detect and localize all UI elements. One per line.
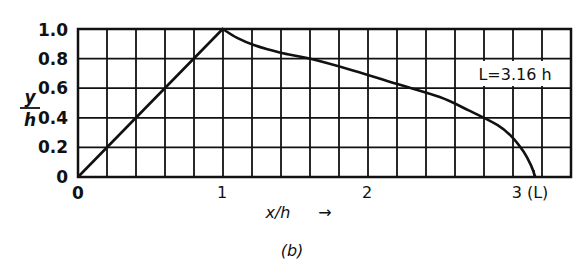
y-tick-0.4: 0.4	[38, 108, 68, 128]
x-tick-3-L: 3 (L)	[512, 183, 549, 202]
figure-caption: (b)	[281, 241, 304, 260]
y-tick-0.6: 0.6	[38, 78, 68, 98]
x-tick-0: 0	[72, 183, 84, 203]
y-tick-0.2: 0.2	[38, 137, 68, 157]
profile-curve	[78, 29, 535, 177]
y-tick-0: 0	[56, 167, 68, 187]
x-axis-arrow-icon: →	[318, 203, 331, 222]
x-tick-2: 2	[362, 183, 372, 202]
annotation-L: L=3.16 h	[478, 65, 551, 84]
x-axis-label: x/h	[265, 203, 291, 222]
y-axis-label-numerator: y	[24, 87, 36, 107]
x-tick-1: 1	[217, 183, 227, 202]
chart-figure: 0 0.2 0.4 0.6 0.8 1.0 y h 0 1 2 3 (L) x/…	[0, 0, 582, 272]
y-tick-1.0: 1.0	[38, 20, 68, 40]
y-axis-label-denominator: h	[24, 110, 36, 130]
y-tick-0.8: 0.8	[38, 49, 68, 69]
